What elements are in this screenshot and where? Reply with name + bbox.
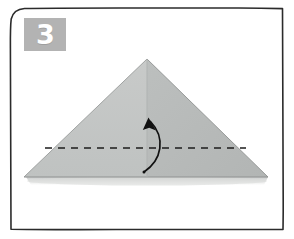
step-number-badge: 3 [24,18,66,51]
step-number-label: 3 [36,21,54,48]
illustration-page: 3 [0,0,294,239]
paper-shadow-blur [27,177,267,186]
fold-arrow-tail-dot [143,171,146,174]
